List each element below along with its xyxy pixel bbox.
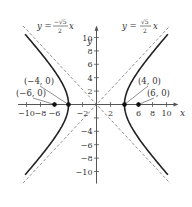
pos-asymptote-label: y = √5 2 x	[121, 18, 158, 34]
x-tick-label: 8	[150, 109, 155, 118]
x-tick-label: −6	[49, 109, 61, 118]
y-axis-label: y	[86, 36, 93, 46]
neg-eq-y: y =	[36, 21, 52, 31]
y-axis-arrow-icon	[95, 25, 99, 30]
labeled-points	[33, 86, 154, 107]
x-tick-label: −10	[18, 109, 35, 118]
hyperbola-chart: −10−8−6−226810108642−4−6−8−10 y x y = −√…	[0, 0, 192, 207]
y-tick-label: −10	[76, 168, 93, 177]
x-axis-arrow-icon	[174, 103, 179, 107]
pos-eq-num: √5	[141, 18, 149, 25]
y-tick-label: 2	[87, 87, 92, 96]
point-marker	[52, 102, 57, 107]
neg-eq-x: x	[69, 21, 74, 31]
pos-eq-x: x	[153, 21, 158, 31]
point-label-6: (6, 0)	[147, 88, 170, 98]
x-tick-label: 2	[108, 109, 113, 118]
y-tick-label: −8	[81, 154, 93, 163]
y-tick-label: 6	[87, 60, 92, 69]
point-label-neg6: (−6, 0)	[16, 88, 46, 98]
point-label-neg4: (−4, 0)	[24, 76, 54, 86]
x-tick-label: −2	[77, 109, 89, 118]
point-marker	[136, 102, 141, 107]
x-axis-label: x	[180, 108, 185, 118]
point-marker	[122, 102, 127, 107]
pos-eq-y: y =	[121, 21, 137, 31]
x-tick-label: 6	[136, 109, 141, 118]
x-tick-label: −8	[35, 109, 47, 118]
point-leader-line	[33, 98, 55, 105]
y-tick-label: −4	[81, 127, 93, 136]
point-leader-line	[139, 98, 155, 105]
pos-eq-den: 2	[143, 27, 147, 34]
y-tick-label: −6	[81, 141, 93, 150]
neg-eq-num: −√5	[54, 18, 67, 25]
point-marker	[66, 102, 71, 107]
point-label-4: (4, 0)	[138, 76, 161, 86]
x-tick-label: 10	[161, 109, 171, 118]
y-tick-label: 8	[87, 47, 92, 56]
neg-asymptote-label: y = −√5 2 x	[36, 18, 74, 34]
y-tick-label: 4	[87, 74, 92, 83]
neg-eq-den: 2	[58, 27, 62, 34]
